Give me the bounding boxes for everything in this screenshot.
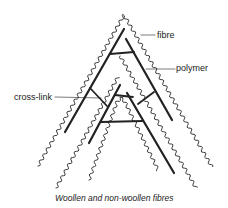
fibre-outline-outer: [38, 14, 213, 188]
cross-link-label: cross-link: [14, 93, 52, 102]
fibre-diagram: [0, 0, 228, 208]
cross-links: [90, 88, 154, 106]
polymer-label: polymer: [176, 64, 208, 73]
fibre-label: fibre: [157, 31, 175, 40]
diagram-caption: Woollen and non-woollen fibres: [55, 193, 174, 203]
